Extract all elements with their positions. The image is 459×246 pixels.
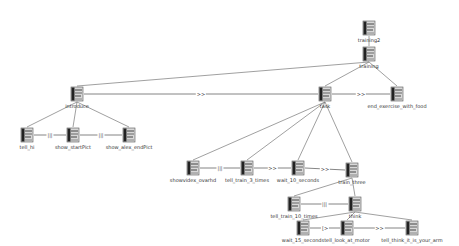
hierarchy-edge <box>298 102 325 160</box>
task-node-show-startPict[interactable] <box>66 127 80 143</box>
operator-label: ||| <box>97 132 104 138</box>
task-icon <box>186 160 200 176</box>
task-icon <box>405 220 419 236</box>
operator-label: ||| <box>46 132 53 138</box>
node-label: tell_think_it_is_your_arm <box>381 237 442 243</box>
node-label: tell_train_10_times <box>270 213 317 219</box>
diagram-edges <box>0 0 459 246</box>
task-icon <box>122 127 136 143</box>
operator-label: ||| <box>321 201 328 207</box>
node-label: training2 <box>358 37 381 43</box>
node-label: task <box>320 103 331 109</box>
node-label: think <box>349 213 362 219</box>
task-icon <box>66 127 80 143</box>
task-icon <box>348 196 362 212</box>
node-label: show_startPict <box>55 144 91 150</box>
task-icon <box>318 86 332 102</box>
task-node-training2[interactable] <box>362 20 376 36</box>
task-icon <box>345 162 359 178</box>
node-label: tell_train_3_times <box>225 177 269 183</box>
task-node-show-nice-overhd[interactable] <box>186 160 200 176</box>
task-icon <box>296 220 310 236</box>
task-icon <box>20 127 34 143</box>
task-icon <box>240 160 254 176</box>
operator-label: [> <box>321 225 329 231</box>
task-node-tell-train-3-times[interactable] <box>240 160 254 176</box>
node-label: introduce <box>65 103 89 109</box>
task-node-introduce[interactable] <box>70 86 84 102</box>
task-node-think[interactable] <box>348 196 362 212</box>
task-icon <box>291 160 305 176</box>
task-node-tell-think-it-is-your-arm[interactable] <box>405 220 419 236</box>
task-node-training[interactable] <box>362 46 376 62</box>
task-icon <box>340 220 354 236</box>
operator-label: ||| <box>216 165 223 171</box>
task-icon <box>362 20 376 36</box>
operator-label: >> <box>320 166 330 172</box>
operator-label: >> <box>196 91 206 97</box>
task-icon <box>70 86 84 102</box>
operator-label: >> <box>374 225 384 231</box>
task-node-show-alex-endPict[interactable] <box>122 127 136 143</box>
node-label: showvidex_ovarhd <box>170 177 216 183</box>
task-node-tell-hi[interactable] <box>20 127 34 143</box>
node-label: wait_10_seconds <box>277 177 319 183</box>
node-label: end_exercise_with_food <box>367 103 426 109</box>
node-label: training <box>359 63 378 69</box>
task-icon <box>287 196 301 212</box>
operator-label: >> <box>356 91 366 97</box>
node-label: train_three <box>338 179 365 185</box>
task-icon <box>362 46 376 62</box>
node-label: tell_hi <box>20 144 35 150</box>
hierarchy-edge <box>325 102 352 162</box>
operator-label: >> <box>267 165 277 171</box>
node-label: show_alex_endPict <box>106 144 153 150</box>
task-node-tell-train-10-times[interactable] <box>287 196 301 212</box>
task-node-train-three[interactable] <box>345 162 359 178</box>
task-node-end-exercise-with-food[interactable] <box>390 86 404 102</box>
task-node-tell-look-at-motor[interactable] <box>340 220 354 236</box>
task-node-wait-10-seconds[interactable] <box>291 160 305 176</box>
node-label: wait_15_seconds <box>282 237 324 243</box>
hierarchy-edge <box>355 212 412 220</box>
task-icon <box>390 86 404 102</box>
task-node-task[interactable] <box>318 86 332 102</box>
node-label: tell_look_at_motor <box>324 237 370 243</box>
task-node-wait-15-seconds[interactable] <box>296 220 310 236</box>
hierarchy-edge <box>77 62 369 86</box>
